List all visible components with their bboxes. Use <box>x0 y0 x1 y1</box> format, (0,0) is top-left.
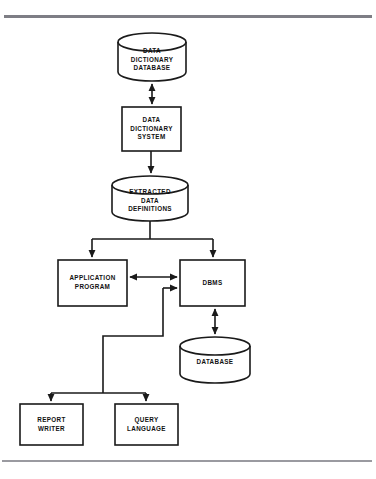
node-application-program <box>58 260 127 306</box>
node-report-writer <box>20 404 83 445</box>
node-extracted-data-definitions <box>112 176 188 221</box>
node-data-dictionary-system <box>122 107 181 151</box>
node-data-dictionary-database <box>118 33 186 81</box>
figure-root: DATA DICTIONARY DATABASE DATA DICTIONARY… <box>0 0 376 479</box>
node-database <box>180 337 250 383</box>
node-query-language <box>115 404 178 445</box>
node-dbms <box>180 260 245 306</box>
flowchart-canvas <box>0 0 376 479</box>
